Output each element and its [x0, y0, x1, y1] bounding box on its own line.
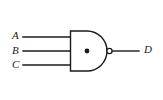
output-label-d: D [144, 44, 152, 55]
gate-schematic-svg [0, 0, 163, 100]
center-dot-marker [85, 49, 90, 54]
inversion-bubble-icon [107, 48, 112, 53]
input-label-a: A [12, 30, 19, 41]
input-label-c: C [12, 59, 19, 70]
logic-gate-diagram: A B C D [0, 0, 163, 100]
input-label-b: B [12, 45, 19, 56]
